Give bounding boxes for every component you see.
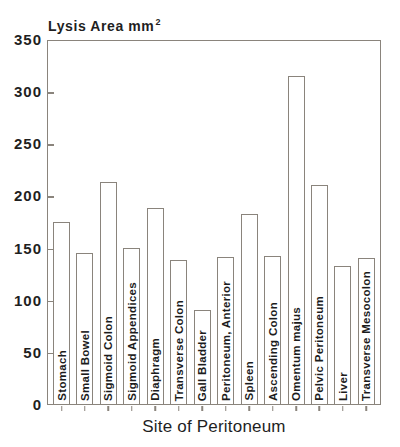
y-tick-label: 250 [0, 136, 42, 152]
bar-label: Sigmoid Colon [102, 316, 114, 401]
x-tick-mark [108, 406, 110, 411]
bar-label: Transverse Colon [173, 300, 185, 401]
bar-label: Spleen [243, 361, 255, 401]
y-tick-mark [48, 196, 54, 198]
y-tick-label: 350 [0, 32, 42, 48]
x-tick-mark [342, 406, 344, 411]
bar-label: Stomach [56, 350, 68, 401]
bar-label: Omentum majus [290, 307, 302, 401]
bar: Stomach [53, 222, 70, 405]
x-tick-mark [295, 406, 297, 411]
chart-title-superscript: 2 [155, 17, 161, 27]
bar: Small Bowel [76, 253, 93, 404]
bar: Liver [334, 266, 351, 404]
bar: Transverse Mesocolon [358, 258, 375, 404]
bar-label: Sigmoid Appendices [126, 282, 138, 401]
y-tick-label: 200 [0, 188, 42, 204]
bar: Pelvic Peritoneum [311, 185, 328, 404]
chart-title-text: Lysis Area mm [48, 18, 154, 34]
bar: Diaphragm [147, 208, 164, 404]
y-tick-label: 100 [0, 293, 42, 309]
bar-label: Gall Bladder [196, 330, 208, 401]
bar-label: Liver [337, 372, 349, 401]
y-tick-label: 300 [0, 84, 42, 100]
x-tick-mark [178, 406, 180, 411]
x-tick-mark [272, 406, 274, 411]
bar: Ascending Colon [264, 256, 281, 404]
y-tick-label: 150 [0, 241, 42, 257]
plot-area: StomachSmall BowelSigmoid ColonSigmoid A… [47, 40, 381, 405]
y-tick-label: 50 [0, 345, 42, 361]
bar-label: Small Bowel [79, 330, 91, 401]
x-tick-mark [248, 406, 250, 411]
y-tick-mark [48, 92, 54, 94]
y-tick-mark [48, 144, 54, 146]
bar: Peritoneum, Anterior [217, 257, 234, 404]
bar: Sigmoid Appendices [123, 248, 140, 404]
y-tick-label: 0 [0, 397, 42, 413]
x-tick-mark [201, 406, 203, 411]
bar: Gall Bladder [194, 310, 211, 404]
x-tick-mark [366, 406, 368, 411]
bar: Sigmoid Colon [100, 182, 117, 404]
x-tick-mark [131, 406, 133, 411]
bar-chart-figure: Lysis Area mm2 StomachSmall BowelSigmoid… [0, 0, 400, 447]
bar-label: Diaphragm [149, 338, 161, 401]
bar-label: Transverse Mesocolon [360, 271, 372, 401]
x-tick-mark [319, 406, 321, 411]
x-tick-mark [61, 406, 63, 411]
chart-title: Lysis Area mm2 [48, 17, 161, 34]
x-tick-mark [155, 406, 157, 411]
x-tick-mark [225, 406, 227, 411]
x-axis-title: Site of Peritoneum [47, 417, 381, 437]
bar: Transverse Colon [170, 260, 187, 404]
bar-label: Peritoneum, Anterior [220, 281, 232, 401]
bar-label: Ascending Colon [267, 302, 279, 401]
bar-label: Pelvic Peritoneum [313, 296, 325, 401]
bar: Spleen [241, 214, 258, 404]
x-tick-mark [84, 406, 86, 411]
bar: Omentum majus [288, 76, 305, 405]
